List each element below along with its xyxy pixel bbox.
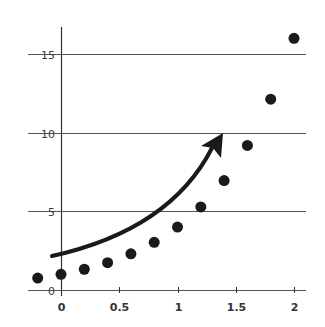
data-point (149, 237, 160, 248)
data-point (125, 248, 136, 259)
y-tick-label: 5 (48, 206, 55, 219)
y-tick-labels: 051015 (41, 49, 55, 298)
y-tick-label: 0 (48, 285, 55, 298)
scatter-chart: 051015 00.511.52 (0, 0, 325, 327)
data-point (265, 94, 276, 105)
data-point (219, 175, 230, 186)
gridlines (28, 55, 306, 291)
data-point (102, 257, 113, 268)
data-point (56, 269, 67, 280)
data-points (32, 33, 299, 284)
x-tick-label: 0 (58, 301, 66, 314)
arrowhead-icon (201, 133, 223, 158)
x-tick-label: 0.5 (110, 301, 130, 314)
data-point (172, 222, 183, 233)
arrow-curve (52, 148, 212, 256)
data-point (195, 201, 206, 212)
axes (62, 27, 295, 296)
trend-arrow (52, 133, 223, 256)
data-point (79, 264, 90, 275)
x-tick-label: 2 (291, 301, 299, 314)
data-point (32, 273, 43, 284)
data-point (289, 33, 300, 44)
y-tick-label: 15 (41, 49, 55, 62)
x-tick-labels: 00.511.52 (58, 301, 299, 314)
y-tick-label: 10 (41, 128, 55, 141)
x-tick-label: 1.5 (227, 301, 247, 314)
data-point (242, 140, 253, 151)
x-tick-label: 1 (175, 301, 183, 314)
